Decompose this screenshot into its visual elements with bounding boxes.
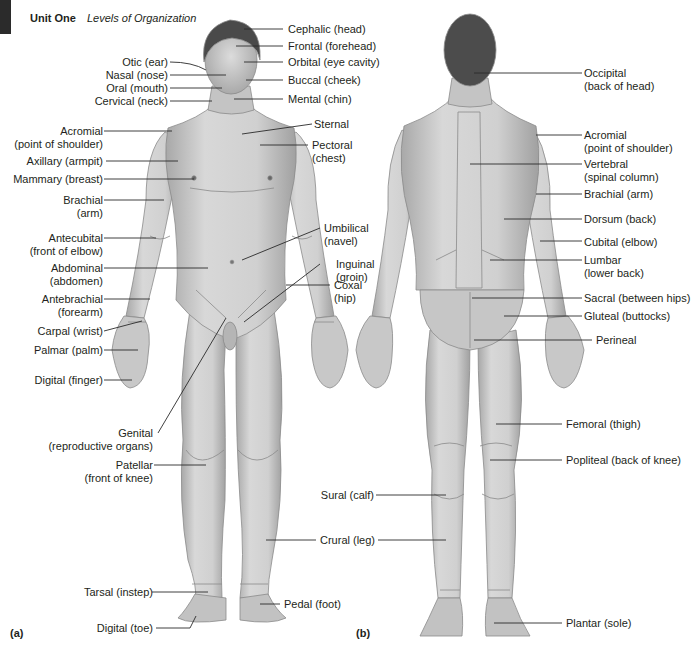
label-oral: Oral (mouth): [106, 82, 168, 95]
label-palmar: Palmar (palm): [34, 344, 103, 357]
label-occipital: Occipital(back of head): [584, 67, 654, 93]
label-cubital: Cubital (elbow): [584, 236, 657, 249]
label-acromial-posterior: Acromial(point of shoulder): [584, 129, 673, 155]
label-orbital: Orbital (eye cavity): [288, 56, 380, 69]
label-antecubital: Antecubital(front of elbow): [30, 232, 103, 258]
label-patellar: Patellar(front of knee): [85, 459, 153, 485]
label-femoral: Femoral (thigh): [566, 418, 641, 431]
label-crural: Crural (leg): [320, 534, 375, 547]
label-popliteal: Popliteal (back of knee): [566, 454, 681, 467]
panel-label-a: (a): [10, 627, 23, 639]
posterior-figure: [356, 14, 584, 636]
label-genital: Genital(reproductive organs): [48, 427, 153, 453]
label-tarsal: Tarsal (instep): [84, 586, 153, 599]
label-cephalic: Cephalic (head): [288, 23, 366, 36]
label-mammary: Mammary (breast): [13, 173, 103, 186]
label-axillary: Axillary (armpit): [27, 155, 103, 168]
label-sacral: Sacral (between hips): [584, 292, 690, 305]
label-brachial-posterior: Brachial (arm): [584, 188, 653, 201]
label-sural: Sural (calf): [321, 489, 374, 502]
label-lumbar: Lumbar(lower back): [584, 254, 644, 280]
label-digital-toe: Digital (toe): [97, 622, 153, 635]
label-carpal: Carpal (wrist): [38, 325, 103, 338]
label-gluteal: Gluteal (buttocks): [584, 310, 670, 323]
label-coxal: Coxal(hip): [334, 279, 362, 305]
label-plantar: Plantar (sole): [566, 617, 631, 630]
label-nasal: Nasal (nose): [106, 69, 168, 82]
label-buccal: Buccal (cheek): [288, 74, 361, 87]
label-vertebral: Vertebral(spinal column): [584, 158, 659, 184]
label-frontal: Frontal (forehead): [288, 40, 376, 53]
label-brachial-anterior: Brachial(arm): [63, 194, 103, 220]
label-cervical: Cervical (neck): [95, 95, 168, 108]
label-mental: Mental (chin): [288, 93, 352, 106]
panel-label-b: (b): [356, 627, 370, 639]
label-acromial-anterior: Acromial(point of shoulder): [14, 125, 103, 151]
label-perineal: Perineal: [596, 334, 636, 347]
label-otic: Otic (ear): [122, 56, 168, 69]
label-dorsum: Dorsum (back): [584, 213, 656, 226]
label-umbilical: Umbilical(navel): [324, 222, 369, 248]
label-pedal: Pedal (foot): [284, 598, 341, 611]
label-pectoral: Pectoral(chest): [312, 139, 352, 165]
label-antebrachial: Antebrachial(forearm): [42, 293, 103, 319]
label-sternal: Sternal: [314, 118, 349, 131]
anterior-figure: [112, 20, 348, 622]
label-digital-finger: Digital (finger): [35, 374, 103, 387]
label-abdominal: Abdominal(abdomen): [50, 262, 103, 288]
